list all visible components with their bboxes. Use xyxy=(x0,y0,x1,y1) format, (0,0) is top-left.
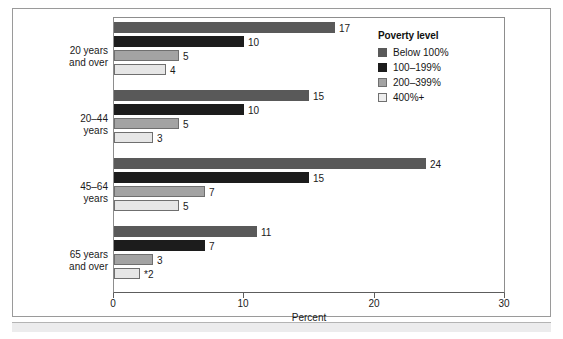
category-label-20-44: 20–44 years xyxy=(4,113,108,136)
bar-200-399 xyxy=(114,118,179,129)
bar-400-plus xyxy=(114,132,153,143)
bar-value-label: 4 xyxy=(170,64,176,75)
bar-400-plus xyxy=(114,268,140,279)
bar-value-label: 17 xyxy=(339,22,350,33)
legend-item-label: 200–399% xyxy=(393,77,441,88)
category-label-line: 20–44 xyxy=(4,113,108,125)
bar-value-label: 10 xyxy=(248,36,259,47)
bar-100-199 xyxy=(114,172,309,183)
bar-value-label: 10 xyxy=(248,104,259,115)
bar-value-label: *2 xyxy=(144,268,153,279)
legend-item-below-100[interactable]: Below 100% xyxy=(378,47,498,58)
legend-item-400-plus[interactable]: 400%+ xyxy=(378,92,498,103)
bar-100-199 xyxy=(114,104,244,115)
bar-value-label: 7 xyxy=(209,186,215,197)
bar-value-label: 5 xyxy=(183,118,189,129)
bar-400-plus xyxy=(114,200,179,211)
x-axis: 0 10 20 30 xyxy=(113,293,505,299)
bar-below-100 xyxy=(114,22,335,33)
bar-below-100 xyxy=(114,158,426,169)
legend-item-label: 100–199% xyxy=(393,62,441,73)
bar-100-199 xyxy=(114,36,244,47)
category-label-line: and over xyxy=(4,261,108,273)
category-label-line: years xyxy=(4,193,108,205)
bar-below-100 xyxy=(114,226,257,237)
legend-swatch-icon xyxy=(378,78,387,87)
category-axis-labels: 20 years and over 20–44 years 45–64 year… xyxy=(0,17,108,293)
x-axis-title: Percent xyxy=(113,312,505,323)
legend-swatch-icon xyxy=(378,48,387,57)
legend-item-100-199[interactable]: 100–199% xyxy=(378,62,498,73)
x-tick-label: 20 xyxy=(368,298,379,309)
bar-400-plus xyxy=(114,64,166,75)
legend-item-label: 400%+ xyxy=(393,92,424,103)
bar-value-label: 5 xyxy=(183,50,189,61)
bar-value-label: 5 xyxy=(183,200,189,211)
chart-screenshot: 20 years and over 20–44 years 45–64 year… xyxy=(0,0,563,339)
bar-value-label: 24 xyxy=(430,158,441,169)
x-tick-label: 30 xyxy=(498,298,509,309)
x-tick-label: 10 xyxy=(237,298,248,309)
category-label-line: 65 years xyxy=(4,249,108,261)
bar-100-199 xyxy=(114,240,205,251)
legend-swatch-icon xyxy=(378,93,387,102)
bar-value-label: 15 xyxy=(313,90,324,101)
category-label-line: years xyxy=(4,125,108,137)
bar-200-399 xyxy=(114,254,153,265)
bar-value-label: 7 xyxy=(209,240,215,251)
legend-swatch-icon xyxy=(378,63,387,72)
bar-200-399 xyxy=(114,186,205,197)
legend-item-label: Below 100% xyxy=(393,47,449,58)
x-tick-label: 0 xyxy=(110,298,116,309)
bar-200-399 xyxy=(114,50,179,61)
bar-value-label: 15 xyxy=(313,172,324,183)
category-label-65-and-over: 65 years and over xyxy=(4,249,108,272)
category-label-line: and over xyxy=(4,57,108,69)
bar-below-100 xyxy=(114,90,309,101)
category-label-45-64: 45–64 years xyxy=(4,181,108,204)
category-label-line: 45–64 xyxy=(4,181,108,193)
bar-value-label: 3 xyxy=(157,254,163,265)
category-label-20-and-over: 20 years and over xyxy=(4,45,108,68)
category-label-line: 20 years xyxy=(4,45,108,57)
figure-footer-strip xyxy=(12,322,551,332)
bar-value-label: 3 xyxy=(157,132,163,143)
legend: Poverty level Below 100% 100–199% 200–39… xyxy=(378,30,498,107)
legend-title: Poverty level xyxy=(378,30,498,41)
bar-value-label: 11 xyxy=(261,226,271,237)
legend-item-200-399[interactable]: 200–399% xyxy=(378,77,498,88)
